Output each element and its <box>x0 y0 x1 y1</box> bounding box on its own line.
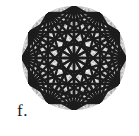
panel-label: f. <box>17 101 28 120</box>
figure-panel: f. <box>0 0 139 136</box>
